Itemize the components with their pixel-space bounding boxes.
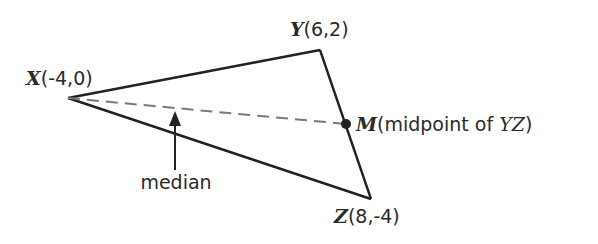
midpoint-m-dot bbox=[341, 119, 351, 129]
label-m: M(midpoint of YZ) bbox=[355, 113, 532, 135]
label-x: X(-4,0) bbox=[25, 67, 93, 89]
label-z: Z(8,-4) bbox=[333, 205, 400, 227]
median-label: median bbox=[140, 171, 211, 193]
edge-xy bbox=[68, 50, 320, 98]
label-y: Y(6,2) bbox=[290, 18, 349, 40]
triangle-diagram: X(-4,0) Y(6,2) M(midpoint of YZ) Z(8,-4)… bbox=[0, 0, 598, 244]
arrowhead-icon bbox=[169, 111, 181, 126]
